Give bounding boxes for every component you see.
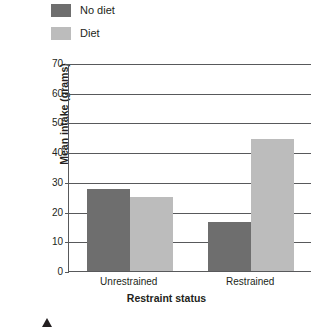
page-marker-triangle-icon	[42, 318, 52, 327]
x-tick-label-restrained: Restrained	[226, 276, 274, 287]
plot-area: 010203040506070	[68, 64, 311, 272]
y-gridline	[69, 94, 311, 95]
y-tick-mark	[65, 94, 69, 95]
y-tick-label: 70	[52, 59, 63, 69]
x-tick-label-unrestrained: Unrestrained	[100, 276, 157, 287]
y-tick-label: 50	[52, 118, 63, 128]
y-tick-label: 0	[57, 267, 63, 277]
bar-unrestrained-diet	[130, 197, 173, 271]
y-tick-label: 40	[52, 148, 63, 158]
y-tick-mark	[65, 242, 69, 243]
bar-unrestrained-no-diet	[87, 189, 130, 271]
y-tick-label: 60	[52, 89, 63, 99]
bar-restrained-no-diet	[208, 222, 251, 271]
y-tick-label: 20	[52, 208, 63, 218]
y-tick-mark	[65, 272, 69, 273]
y-tick-mark	[65, 64, 69, 65]
y-tick-mark	[65, 123, 69, 124]
y-gridline	[69, 123, 311, 124]
x-axis-title: Restraint status	[0, 292, 333, 304]
plot-wrapper: Mean intake (grams) 010203040506070 Rest…	[0, 0, 333, 333]
y-tick-label: 30	[52, 178, 63, 188]
bar-restrained-diet	[251, 139, 294, 271]
y-tick-label: 10	[52, 237, 63, 247]
y-tick-mark	[65, 153, 69, 154]
y-tick-mark	[65, 213, 69, 214]
y-gridline	[69, 64, 311, 65]
bar-chart-figure: No diet Diet Mean intake (grams) 0102030…	[0, 0, 333, 333]
y-tick-mark	[65, 183, 69, 184]
